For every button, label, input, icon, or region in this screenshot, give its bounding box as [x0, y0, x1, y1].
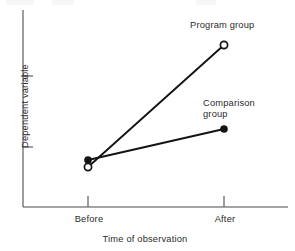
x-axis-title: Time of observation — [80, 234, 210, 245]
x-tick-label-after: After — [205, 214, 245, 225]
comparison-group-marker-after — [221, 126, 227, 132]
program-group-marker-before — [84, 163, 91, 170]
y-axis-title: Dependent variable — [20, 31, 30, 181]
chart-figure: Program group Comparison group Before Af… — [0, 0, 295, 251]
comparison-group-label: Comparison group — [203, 98, 255, 119]
chart-canvas — [0, 0, 295, 251]
comparison-group-marker-before — [85, 157, 91, 163]
x-tick-label-before: Before — [68, 214, 110, 225]
comparison-group-line — [88, 129, 224, 160]
program-group-label: Program group — [190, 20, 254, 31]
program-group-marker-after — [220, 41, 227, 48]
